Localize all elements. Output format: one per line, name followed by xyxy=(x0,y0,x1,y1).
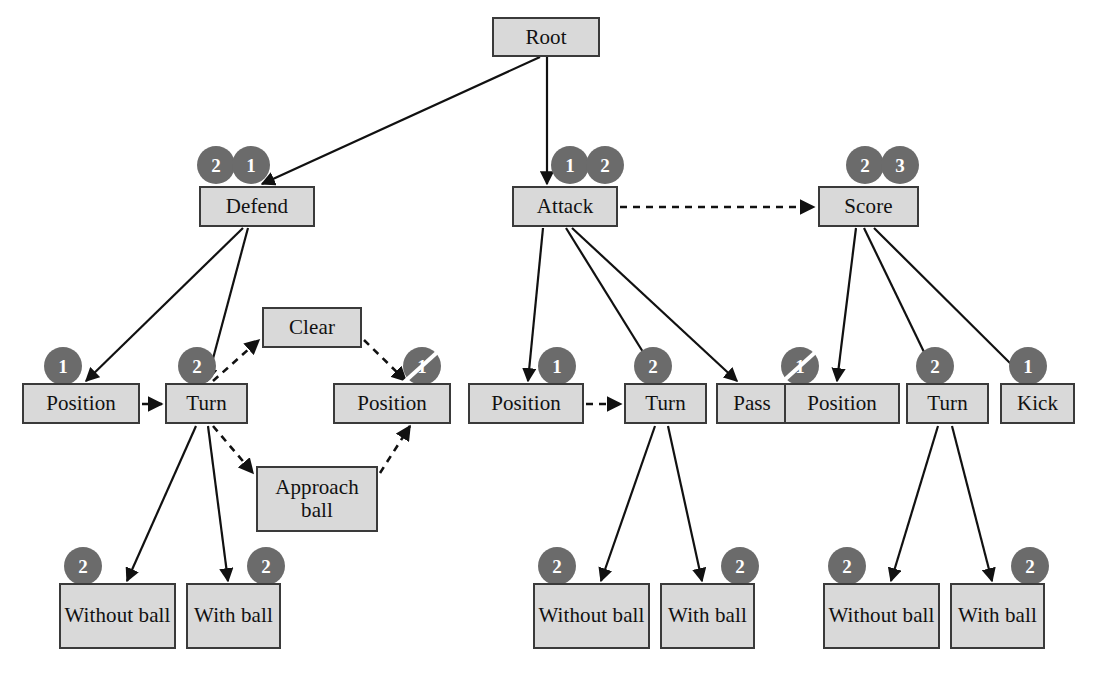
priority-badge-d-position2-1-struck[interactable]: 1 xyxy=(403,347,441,385)
badge-value: 2 xyxy=(860,156,870,175)
node-d-approach[interactable]: Approach ball xyxy=(256,466,378,532)
edge-d-turn-to-d-approach xyxy=(213,426,253,473)
badge-value: 2 xyxy=(1025,557,1035,576)
badge-value: 1 xyxy=(1023,357,1033,376)
edge-s-turn-to-s-without xyxy=(891,426,938,581)
badge-value: 2 xyxy=(648,357,658,376)
node-s-position[interactable]: Position xyxy=(784,383,900,424)
badge-value: 2 xyxy=(930,357,940,376)
node-label: Position xyxy=(807,392,877,414)
priority-badge-s-without-2[interactable]: 2 xyxy=(828,547,866,585)
node-s-turn[interactable]: Turn xyxy=(906,383,989,424)
node-d-clear[interactable]: Clear xyxy=(262,307,362,348)
priority-badge-score-2[interactable]: 2 xyxy=(846,146,884,184)
badge-value: 1 xyxy=(417,357,427,376)
node-label: Score xyxy=(844,195,892,217)
node-label: Approach ball xyxy=(258,476,376,522)
priority-badge-defend-1[interactable]: 1 xyxy=(232,146,270,184)
node-d-turn[interactable]: Turn xyxy=(165,383,248,424)
node-s-without[interactable]: Without ball xyxy=(823,583,940,649)
priority-badge-a-turn-2[interactable]: 2 xyxy=(634,347,672,385)
node-a-pass[interactable]: Pass xyxy=(716,383,788,424)
node-s-kick[interactable]: Kick xyxy=(1000,383,1075,424)
node-label: Pass xyxy=(733,392,771,414)
node-attack[interactable]: Attack xyxy=(512,186,618,227)
node-label: Without ball xyxy=(539,604,645,627)
node-label: Without ball xyxy=(65,604,171,627)
edge-root-to-defend xyxy=(262,57,540,184)
node-d-position2[interactable]: Position xyxy=(333,383,451,424)
node-label: Attack xyxy=(537,195,594,217)
edge-score-to-s-position xyxy=(837,228,856,381)
node-d-without[interactable]: Without ball xyxy=(59,583,176,649)
node-a-with[interactable]: With ball xyxy=(660,583,755,649)
node-score[interactable]: Score xyxy=(818,186,919,227)
badge-value: 2 xyxy=(735,557,745,576)
priority-badge-d-turn-2[interactable]: 2 xyxy=(178,347,216,385)
priority-badge-d-position-1[interactable]: 1 xyxy=(44,347,82,385)
node-a-without[interactable]: Without ball xyxy=(533,583,650,649)
badge-value: 1 xyxy=(58,357,68,376)
node-label: Position xyxy=(357,392,427,414)
badge-value: 3 xyxy=(895,156,905,175)
edge-a-turn-to-a-with xyxy=(668,426,702,581)
priority-badge-attack-1[interactable]: 1 xyxy=(551,146,589,184)
priority-badge-a-with-2[interactable]: 2 xyxy=(721,547,759,585)
node-a-position[interactable]: Position xyxy=(468,383,584,424)
badge-value: 2 xyxy=(192,357,202,376)
node-label: Turn xyxy=(645,392,685,414)
priority-badge-defend-2[interactable]: 2 xyxy=(197,146,235,184)
badge-value: 2 xyxy=(842,557,852,576)
edge-d-turn-to-d-clear xyxy=(213,340,259,381)
node-defend[interactable]: Defend xyxy=(199,186,315,227)
badge-value: 1 xyxy=(795,357,805,376)
node-label: Kick xyxy=(1017,392,1058,414)
node-label: With ball xyxy=(668,604,747,627)
badge-value: 2 xyxy=(211,156,221,175)
node-d-with[interactable]: With ball xyxy=(186,583,281,649)
node-label: With ball xyxy=(194,604,273,627)
edge-a-turn-to-a-without xyxy=(601,426,655,581)
node-label: Turn xyxy=(186,392,226,414)
priority-badge-s-kick-1[interactable]: 1 xyxy=(1009,347,1047,385)
badge-value: 2 xyxy=(78,557,88,576)
badge-value: 2 xyxy=(600,156,610,175)
badge-value: 2 xyxy=(261,557,271,576)
edge-d-turn-to-d-with xyxy=(208,426,228,581)
node-label: Clear xyxy=(289,316,335,338)
behaviour-tree-diagram: RootDefendAttackScorePositionTurnClearAp… xyxy=(0,0,1098,689)
node-label: Position xyxy=(46,392,116,414)
priority-badge-s-with-2[interactable]: 2 xyxy=(1011,547,1049,585)
node-label: With ball xyxy=(958,604,1037,627)
badge-value: 1 xyxy=(552,357,562,376)
node-label: Turn xyxy=(927,392,967,414)
edge-d-clear-to-d-position2 xyxy=(364,340,406,381)
priority-badge-attack-2[interactable]: 2 xyxy=(586,146,624,184)
priority-badge-s-turn-2[interactable]: 2 xyxy=(916,347,954,385)
badge-value: 2 xyxy=(552,557,562,576)
badge-value: 1 xyxy=(565,156,575,175)
priority-badge-d-without-2[interactable]: 2 xyxy=(64,547,102,585)
edge-d-turn-to-d-without xyxy=(127,426,196,581)
node-label: Position xyxy=(491,392,561,414)
node-root[interactable]: Root xyxy=(492,17,600,57)
priority-badge-a-without-2[interactable]: 2 xyxy=(538,547,576,585)
node-label: Without ball xyxy=(829,604,935,627)
priority-badge-a-position-1[interactable]: 1 xyxy=(538,347,576,385)
node-label: Defend xyxy=(226,195,288,217)
node-s-with[interactable]: With ball xyxy=(950,583,1045,649)
node-label: Root xyxy=(525,26,566,48)
edge-d-approach-to-d-position2 xyxy=(380,426,410,473)
priority-badge-s-position-1-struck[interactable]: 1 xyxy=(781,347,819,385)
edge-defend-to-d-position xyxy=(86,228,243,381)
page-running-head xyxy=(0,0,1098,12)
node-d-position[interactable]: Position xyxy=(22,383,140,424)
priority-badge-d-with-2[interactable]: 2 xyxy=(247,547,285,585)
node-a-turn[interactable]: Turn xyxy=(624,383,707,424)
edge-s-turn-to-s-with xyxy=(952,426,992,581)
badge-value: 1 xyxy=(246,156,256,175)
priority-badge-score-3[interactable]: 3 xyxy=(881,146,919,184)
